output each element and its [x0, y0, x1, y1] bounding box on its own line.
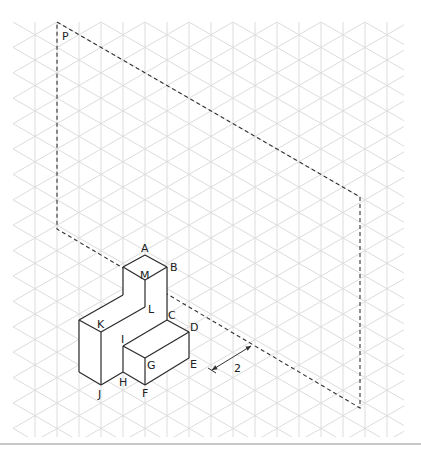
dimension-label: 2: [234, 362, 241, 375]
vertex-label-g: G: [147, 359, 156, 372]
vertex-label-b: B: [170, 261, 178, 274]
vertex-label-h: H: [119, 376, 127, 389]
vertex-label-d: D: [190, 321, 198, 334]
vertex-label-i: I: [121, 333, 124, 346]
vertex-label-k: K: [97, 318, 105, 331]
vertex-label-a: A: [141, 242, 149, 255]
vertex-label-m: M: [140, 269, 150, 282]
plane-label-p: P: [62, 30, 69, 43]
vertex-label-f: F: [142, 387, 148, 400]
vertex-label-c: C: [168, 309, 176, 322]
vertex-label-e: E: [190, 358, 197, 371]
vertex-label-j: J: [97, 388, 101, 401]
bottom-divider: [0, 443, 421, 445]
isometric-diagram: P A B M L C D K I G E H J F 2: [0, 0, 421, 452]
vertex-label-l: L: [148, 303, 155, 316]
isometric-grid: [0, 0, 421, 452]
